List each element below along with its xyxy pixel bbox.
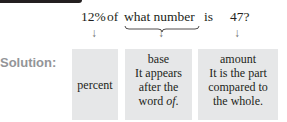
amount-desc-line: It is the part [198, 66, 278, 80]
header-bar-decoration [0, 0, 82, 3]
arrow-down-icon: ↓ [91, 26, 97, 41]
percent-box: percent [72, 49, 118, 120]
solution-label: Solution: [0, 55, 56, 70]
amount-box: amount It is the part compared to the wh… [198, 49, 278, 120]
question-sentence: 12% of what number is 47? [0, 9, 287, 25]
base-desc-text: word [138, 94, 166, 108]
amount-title: amount [198, 52, 278, 66]
base-desc-line: It appears [125, 66, 192, 80]
amount-desc-line: compared to [198, 80, 278, 94]
question-amount: 47? [230, 9, 250, 25]
question-is: is [204, 9, 213, 25]
base-desc-line: after the [125, 80, 192, 94]
arrow-down-icon: ↓ [234, 26, 240, 41]
question-of: of [107, 9, 118, 25]
base-box: base It appears after the word of. [125, 49, 192, 120]
base-period: . [176, 94, 179, 108]
question-what-number: what number [124, 9, 195, 25]
base-desc-line: word of. [125, 94, 192, 108]
question-percent: 12% [81, 9, 106, 25]
amount-desc-line: the whole. [198, 94, 278, 108]
base-italic-word: of [166, 94, 175, 108]
base-title: base [125, 52, 192, 66]
arrow-down-icon: ↓ [158, 26, 164, 41]
percent-label: percent [72, 78, 118, 92]
